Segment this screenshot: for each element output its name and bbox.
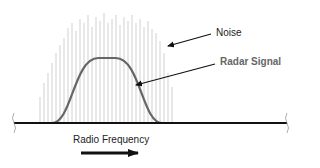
radar-signal-curve (52, 58, 162, 123)
noise-lines (40, 13, 172, 123)
noise-label: Noise (216, 28, 242, 38)
radio-frequency-axis-label: Radio Frequency (73, 135, 149, 145)
radar-signal-label: Radar Signal (220, 57, 281, 67)
noise-pointer-arrow (168, 34, 211, 46)
